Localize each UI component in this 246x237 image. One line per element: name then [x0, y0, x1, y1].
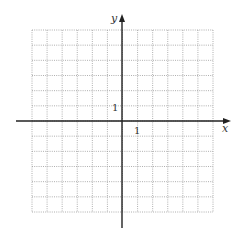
- y-axis-arrow-icon: [119, 14, 125, 22]
- y-axis-label: y: [110, 12, 118, 25]
- x-unit-tick-label: 1: [134, 125, 140, 136]
- coordinate-plane: x y 1 1: [0, 0, 246, 237]
- x-axis-label: x: [222, 122, 229, 135]
- y-unit-tick-label: 1: [112, 102, 118, 113]
